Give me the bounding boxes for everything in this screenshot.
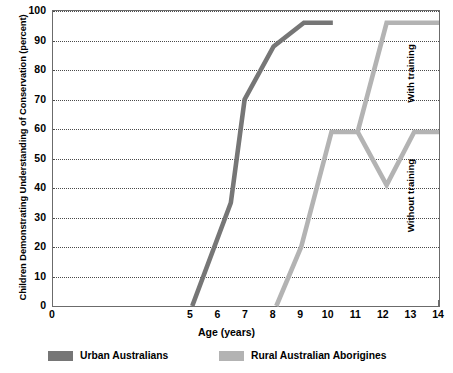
y-tick-label-50: 50 [16,153,46,164]
x-tick-label-6: 6 [202,308,232,320]
legend-swatch-icon [219,351,244,361]
series-line-rural-australian-aborigines-with-training [358,23,439,132]
y-tick-label-40: 40 [16,182,46,193]
y-tick-label-100: 100 [16,5,46,16]
y-tick-label-80: 80 [16,64,46,75]
x-axis-tick-labels: 0567891011121314 [0,308,453,328]
x-tick-label-12: 12 [368,308,398,320]
annotation-without-training: Without training [405,131,416,261]
data-series-layer [53,11,439,306]
x-tick-label-14: 14 [423,308,453,320]
legend-item-rural-australian-aborigines[interactable]: Rural Australian Aborigines [219,350,386,361]
series-line-rural-australian-aborigines-without-training [358,132,439,185]
y-tick-label-20: 20 [16,241,46,252]
x-tick-mark-14 [438,300,439,307]
x-tick-label-13: 13 [395,308,425,320]
annotation-with-training: With training [405,19,416,129]
x-tick-label-10: 10 [313,308,343,320]
x-tick-label-7: 7 [230,308,260,320]
series-line-rural-australian-aborigines [276,132,357,306]
chart-legend: Urban AustraliansRural Australian Aborig… [0,348,453,370]
y-tick-label-60: 60 [16,123,46,134]
legend-swatch-icon [48,351,73,361]
x-tick-label-9: 9 [285,308,315,320]
legend-label: Rural Australian Aborigines [251,350,386,361]
conservation-understanding-line-chart: Children Demonstrating Understanding of … [0,0,453,373]
y-tick-label-70: 70 [16,94,46,105]
y-tick-label-30: 30 [16,212,46,223]
x-tick-mark-0 [52,300,53,307]
legend-item-urban-australians[interactable]: Urban Australians [48,350,168,361]
x-tick-label-5: 5 [175,308,205,320]
y-tick-label-10: 10 [16,271,46,282]
x-axis-title: Age (years) [0,326,453,338]
x-tick-label-8: 8 [258,308,288,320]
series-line-urban-australians [192,23,333,306]
plot-inner [53,11,439,306]
x-tick-label-0: 0 [37,308,67,320]
y-tick-label-90: 90 [16,35,46,46]
legend-label: Urban Australians [80,350,168,361]
plot-area [52,10,440,307]
x-tick-label-11: 11 [340,308,370,320]
